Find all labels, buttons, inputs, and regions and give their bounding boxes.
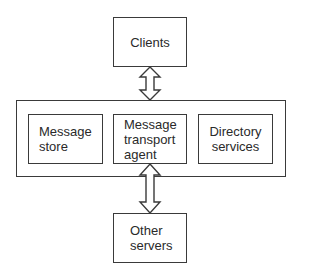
double-arrow-icon: [140, 67, 160, 100]
double-arrow-icon: [140, 164, 160, 213]
